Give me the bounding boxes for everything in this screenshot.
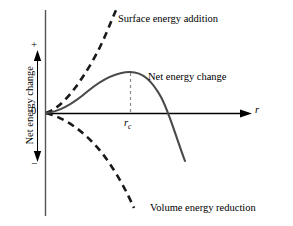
plot-canvas	[0, 0, 293, 226]
x-axis-label: r	[255, 105, 259, 116]
volume-energy-curve	[46, 113, 134, 208]
energy-vs-radius-figure: Surface energy addition Net energy chang…	[0, 0, 293, 226]
surface-energy-label: Surface energy addition	[118, 14, 218, 25]
critical-radius-label: rc	[124, 118, 131, 131]
x-axis-arrowhead	[240, 110, 252, 118]
critical-radius-subscript: c	[128, 122, 131, 131]
y-axis-title: Net energy change	[25, 46, 36, 164]
net-energy-label: Net energy change	[148, 72, 227, 83]
net-energy-curve	[46, 72, 185, 161]
volume-energy-label: Volume energy reduction	[150, 203, 256, 214]
